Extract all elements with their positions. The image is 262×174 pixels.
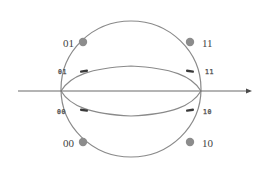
outer-dot-11 — [186, 38, 194, 46]
outer-label-01: 01 — [63, 37, 74, 49]
outer-dot-10 — [186, 138, 194, 146]
inner-ellipse-lower — [61, 91, 201, 116]
inner-label-10: 10 — [203, 108, 212, 116]
outer-dot-00 — [79, 138, 87, 146]
inner-marker-10 — [186, 108, 194, 111]
inner-label-11: 11 — [205, 68, 214, 76]
sphere-diagram: 01 11 00 10 01 11 00 10 — [0, 0, 262, 174]
outer-dot-01 — [79, 38, 87, 46]
inner-label-01: 01 — [58, 68, 67, 76]
outer-label-10: 10 — [202, 137, 214, 149]
axis-arrow-icon — [246, 89, 252, 94]
outer-label-00: 00 — [63, 137, 75, 149]
inner-label-00: 00 — [57, 108, 66, 116]
inner-ellipse-upper — [61, 66, 201, 91]
inner-marker-11 — [186, 69, 194, 72]
outer-label-11: 11 — [202, 37, 213, 49]
